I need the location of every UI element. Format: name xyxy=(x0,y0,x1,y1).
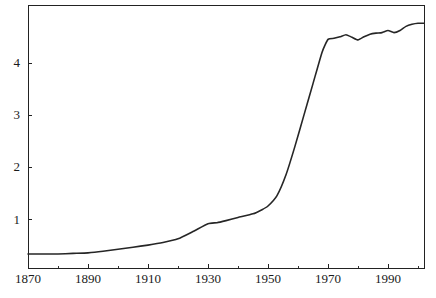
line-chart: 1870189019101930195019701990 1234 xyxy=(0,0,436,298)
x-tick-label: 1890 xyxy=(75,271,101,286)
x-tick-label: 1930 xyxy=(195,271,221,286)
y-tick-label: 3 xyxy=(14,107,21,122)
x-tick-label: 1870 xyxy=(15,271,41,286)
chart-container: 1870189019101930195019701990 1234 xyxy=(0,0,436,298)
x-tick-label: 1970 xyxy=(315,271,341,286)
x-tick-label: 1950 xyxy=(255,271,281,286)
y-tick-label: 4 xyxy=(14,55,21,70)
y-tick-label: 2 xyxy=(14,159,21,174)
y-tick-label: 1 xyxy=(14,212,21,227)
x-tick-label: 1990 xyxy=(375,271,401,286)
x-tick-label: 1910 xyxy=(135,271,161,286)
